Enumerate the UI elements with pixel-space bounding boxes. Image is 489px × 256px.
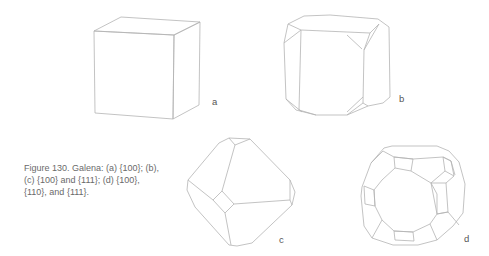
figure-caption: Figure 130. Galena: (a) {100}; (b), (c) … xyxy=(24,162,164,198)
crystal-drawings xyxy=(0,0,489,256)
panel-label-a: a xyxy=(212,96,217,107)
panel-label-d: d xyxy=(464,233,469,244)
crystal-a-cube xyxy=(94,17,200,119)
crystal-c-octahedron xyxy=(187,138,295,246)
panel-label-b: b xyxy=(399,93,404,104)
crystal-b-truncated-cube xyxy=(284,15,390,115)
crystal-d-combination xyxy=(361,146,465,245)
panel-label-c: c xyxy=(279,234,284,245)
